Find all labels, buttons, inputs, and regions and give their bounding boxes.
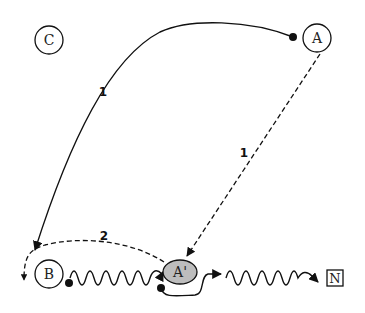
node-n: N [327,270,343,286]
edge-a-to-b: 1 [35,23,297,250]
edge-a-to-aprime: 1 [187,54,320,256]
node-n-label: N [329,271,340,286]
node-b: B [35,260,63,288]
node-a-prime-label: A' [172,264,187,280]
node-b-label: B [44,266,54,282]
node-a-prime: A' [163,260,197,284]
node-a: A [303,24,331,52]
edge-a-to-b-label: 1 [99,85,107,99]
node-c-label: C [44,32,55,48]
node-a-label: A [311,30,323,46]
node-c: C [35,26,63,54]
edge-b-to-aprime [65,271,163,287]
edge-a-to-aprime-label: 1 [240,146,248,160]
diagram-canvas: C A 1 1 2 B A' N [0,0,365,313]
edge-origin-dot [65,279,73,287]
edge-aprime-to-b-label: 2 [100,229,108,243]
